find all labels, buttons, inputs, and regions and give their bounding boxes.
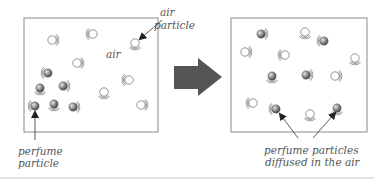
diffused-caption-line2: diffused in the air (265, 156, 361, 168)
air-particle-label-line1: air (160, 6, 176, 18)
air-particle-icon (278, 49, 289, 60)
perfume-particle-icon (317, 35, 328, 46)
air-particle-icon (48, 34, 59, 45)
before-particles-group (28, 28, 148, 112)
perfume-particle-icon (257, 28, 268, 39)
air-particle-icon (98, 88, 109, 99)
air-particle-icon (137, 99, 148, 110)
perfume-particle-label-line1: perfume (18, 145, 63, 157)
diffused-pointer-arrow-left (280, 114, 298, 138)
diffused-pointer-arrow-right (313, 113, 335, 138)
perfume-particle-icon (69, 101, 80, 112)
transition-arrow-icon (174, 58, 222, 96)
diffusion-diagram: air air particle perfume particle perfum… (0, 0, 374, 185)
air-particle-icon (241, 46, 252, 57)
air-particle-icon (122, 74, 133, 85)
perfume-particle-icon (28, 100, 39, 111)
air-particle-icon (246, 97, 257, 108)
perfume-particle-icon (266, 72, 277, 83)
air-particle-icon (86, 28, 97, 39)
air-particle-icon (331, 70, 342, 81)
after-particles-group (241, 28, 361, 121)
air-particle-icon (299, 28, 310, 39)
diffused-caption-line1: perfume particles (264, 144, 359, 156)
perfume-particle-icon (48, 100, 59, 111)
after-container-box (231, 18, 367, 132)
air-particle-icon (304, 110, 315, 121)
perfume-particle-icon (41, 67, 52, 78)
perfume-particle-icon (302, 69, 313, 80)
perfume-particle-label-line2: particle (18, 157, 59, 169)
perfume-particle-icon (331, 104, 342, 115)
perfume-particle-icon (34, 84, 45, 95)
air-particle-icon (129, 39, 140, 50)
perfume-particle-icon (269, 103, 280, 114)
perfume-particle-icon (59, 80, 70, 91)
air-particle-icon (73, 57, 84, 68)
air-particle-label-line2: particle (154, 19, 195, 31)
air-particle-icon (349, 54, 360, 65)
air-region-label: air (106, 48, 122, 60)
